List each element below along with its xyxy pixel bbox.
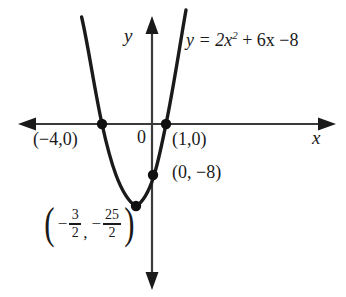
vertex-y-fraction: 25 2 <box>103 208 121 241</box>
vertex-y-denominator: 2 <box>107 226 118 241</box>
label-x-intercept-left: (−4,0) <box>33 130 78 148</box>
parabola-curve <box>82 10 186 207</box>
point-x-intercept-left <box>97 119 107 129</box>
equation-rhs: + 6x −8 <box>238 30 299 50</box>
label-y-intercept: (0, −8) <box>172 163 221 181</box>
y-axis-bottom-arrowhead <box>146 272 159 290</box>
vertex-y-minus-sign: − <box>92 215 102 232</box>
equation-variable: x <box>224 30 232 50</box>
label-x-intercept-right: (1,0) <box>172 130 207 148</box>
x-axis-label: x <box>312 128 320 147</box>
label-vertex: ( − 3 2 , − 25 2 ) <box>42 205 137 243</box>
vertex-close-bracket: ) <box>124 205 134 243</box>
vertex-open-bracket: ( <box>44 205 54 243</box>
y-axis-top-arrowhead <box>146 16 159 34</box>
point-y-intercept <box>148 170 158 180</box>
equation-label: y = 2x2 + 6x −8 <box>186 30 298 49</box>
vertex-y-term: − 25 2 <box>92 208 122 241</box>
vertex-x-denominator: 2 <box>70 226 81 241</box>
y-axis-label: y <box>124 26 132 45</box>
vertex-x-numerator: 3 <box>70 208 81 223</box>
vertex-x-term: − 3 2 <box>58 208 82 241</box>
quadratic-graph-figure: y x 0 y = 2x2 + 6x −8 (−4,0) (1,0) (0, −… <box>0 0 346 297</box>
origin-label: 0 <box>137 128 146 146</box>
vertex-comma: , <box>83 224 87 243</box>
point-x-intercept-right <box>161 119 171 129</box>
vertex-x-minus-sign: − <box>58 215 68 232</box>
x-axis-right-arrowhead <box>318 118 336 131</box>
vertex-x-fraction: 3 2 <box>69 208 81 241</box>
equation-lhs: y = 2 <box>186 30 224 50</box>
vertex-y-numerator: 25 <box>103 208 121 223</box>
